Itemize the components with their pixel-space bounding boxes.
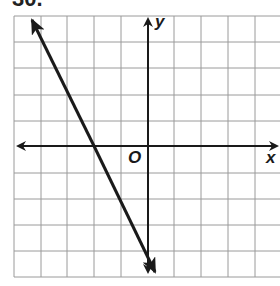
coordinate-graph xyxy=(0,0,280,286)
x-axis-label: x xyxy=(266,148,275,168)
y-axis-label: y xyxy=(155,12,164,32)
origin-label: O xyxy=(128,148,141,168)
